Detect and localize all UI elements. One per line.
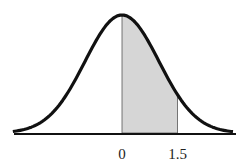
- tick-label-1.5: 1.5: [168, 146, 187, 162]
- tick-label-0: 0: [118, 146, 126, 162]
- shaded-area: [122, 15, 178, 133]
- normal-curve-chart: 0 1.5: [0, 0, 241, 167]
